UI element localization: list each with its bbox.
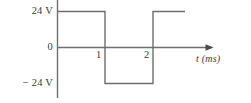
y-axis-label-positive: 24 V	[32, 6, 53, 17]
y-axis-label-zero: 0	[48, 42, 53, 53]
x-axis-arrowhead	[206, 44, 214, 51]
x-axis-title: t (ms)	[196, 54, 220, 64]
x-axis-tick-label-2: 2	[144, 50, 149, 61]
y-axis-label-negative: − 24 V	[23, 78, 53, 89]
x-axis-tick-label-1: 1	[96, 50, 101, 61]
square-wave-figure: 24 V 0 − 24 V 1 2 t (ms)	[0, 0, 251, 103]
